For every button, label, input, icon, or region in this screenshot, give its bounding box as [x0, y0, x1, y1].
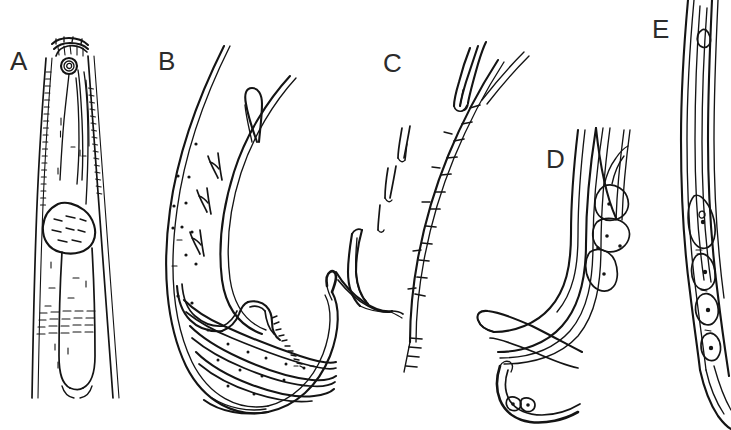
panel-c-drawing [336, 42, 529, 372]
panel-label-b: B [158, 48, 176, 74]
panel-label-d: D [546, 146, 565, 172]
panel-label-e: E [652, 16, 670, 42]
panel-e-drawing [681, 0, 731, 429]
panel-label-a: A [10, 48, 28, 74]
panel-b-drawing [166, 46, 338, 414]
panel-label-c: C [383, 50, 402, 76]
figure-artwork [0, 0, 731, 430]
panel-a-drawing [32, 37, 119, 398]
figure-plate: A B C D E [0, 0, 731, 430]
